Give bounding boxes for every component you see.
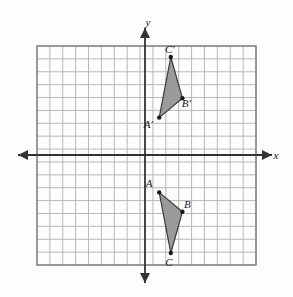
vertex-point xyxy=(169,55,173,59)
vertex-label: C' xyxy=(165,43,175,55)
vertex-label: A' xyxy=(143,118,154,130)
coordinate-plane-figure: x y A'B'C'ABC xyxy=(0,0,293,297)
vertex-label: B xyxy=(184,198,191,210)
vertex-point xyxy=(169,251,173,255)
vertex-label: A xyxy=(145,177,153,189)
vertex-point xyxy=(180,210,184,214)
vertex-label: C xyxy=(165,256,173,268)
coordinate-plane-svg: x y A'B'C'ABC xyxy=(0,0,293,297)
vertex-point xyxy=(157,190,161,194)
x-axis-label: x xyxy=(273,149,279,161)
y-axis-label: y xyxy=(145,16,151,28)
vertex-label: B' xyxy=(182,97,192,109)
vertex-point xyxy=(157,115,161,119)
